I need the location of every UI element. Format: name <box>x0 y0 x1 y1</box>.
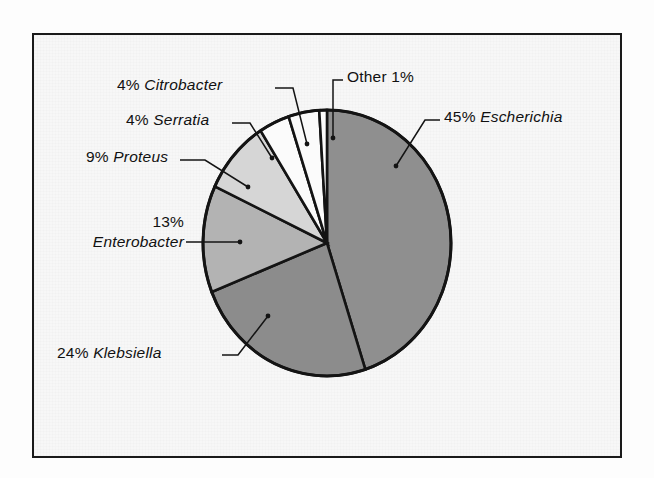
label-other-percent: 1% <box>391 68 414 85</box>
label-klebsiella-percent: 24% <box>57 344 89 361</box>
leader-dot-proteus <box>246 185 251 190</box>
label-citrobacter-percent: 4% <box>117 76 140 93</box>
leader-dot-other <box>331 136 336 141</box>
leader-dot-citrobacter <box>305 142 310 147</box>
label-enterobacter-percent: 13% <box>152 213 184 230</box>
leader-dot-klebsiella <box>266 314 271 319</box>
label-escherichia-genus: Escherichia <box>480 108 562 125</box>
label-enterobacter: 13% Enterobacter <box>66 212 184 252</box>
label-other-name: Other <box>347 68 387 85</box>
leader-dot-serratia <box>270 156 275 161</box>
label-proteus-percent: 9% <box>86 148 109 165</box>
label-other: Other 1% <box>347 68 414 86</box>
label-serratia: 4% Serratia <box>126 111 209 129</box>
label-proteus: 9% Proteus <box>86 148 168 166</box>
label-citrobacter-genus: Citrobacter <box>144 76 222 93</box>
label-serratia-percent: 4% <box>126 111 149 128</box>
label-proteus-genus: Proteus <box>113 148 168 165</box>
leader-dot-enterobacter <box>238 240 243 245</box>
figure-page: 45% Escherichia Other 1% 4% Citrobacter … <box>0 0 654 478</box>
label-klebsiella-genus: Klebsiella <box>93 344 161 361</box>
label-escherichia-percent: 45% <box>444 108 476 125</box>
label-serratia-genus: Serratia <box>153 111 209 128</box>
label-citrobacter: 4% Citrobacter <box>117 76 222 94</box>
label-enterobacter-genus: Enterobacter <box>66 232 184 252</box>
label-klebsiella: 24% Klebsiella <box>57 344 162 362</box>
label-escherichia: 45% Escherichia <box>444 108 562 126</box>
leader-dot-escherichia <box>394 164 399 169</box>
